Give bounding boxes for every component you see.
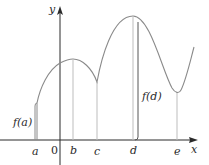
point-c-label: c xyxy=(94,146,100,157)
f-d-segment xyxy=(135,22,138,140)
x-axis-label: x xyxy=(191,144,197,155)
y-axis-label: y xyxy=(49,4,55,15)
f-a-segment xyxy=(35,103,37,140)
function-graph: y x 0 a b c d e f(a) f(d) xyxy=(0,0,209,165)
origin-label: 0 xyxy=(51,145,58,156)
graph-canvas xyxy=(0,0,209,165)
function-curve xyxy=(37,16,194,103)
f-a-label: f(a) xyxy=(13,117,32,128)
point-a-label: a xyxy=(32,146,39,157)
point-e-label: e xyxy=(174,146,181,157)
f-d-label: f(d) xyxy=(142,91,162,102)
point-b-label: b xyxy=(70,145,77,156)
point-d-label: d xyxy=(130,145,137,156)
